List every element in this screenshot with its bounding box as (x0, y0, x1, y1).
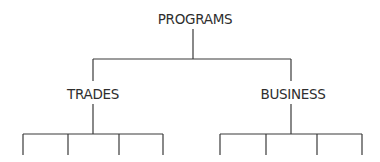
business-node-label: BUSINESS (260, 87, 325, 101)
root-node-label: PROGRAMS (158, 12, 233, 26)
tree-diagram: PROGRAMS TRADES BUSINESS (0, 0, 380, 162)
trades-node-label: TRADES (67, 87, 119, 101)
